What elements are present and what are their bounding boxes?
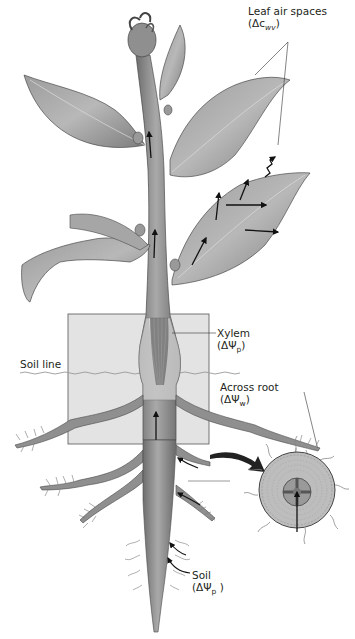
leaf-top-right [160,25,185,100]
leaf-lower-right [172,173,310,285]
root-cross-section [244,436,349,544]
terminal-bud [128,13,156,57]
label-across-root: Across root (ΔΨw) [220,381,279,410]
leaf-upper-right [170,77,290,177]
plant-water-transport-diagram [0,0,355,639]
label-soil: Soil (ΔΨp ) [192,569,224,598]
leaf-upper-left [24,75,145,147]
cross-section-pointer-arrow [210,452,265,472]
label-leaf-air-spaces: Leaf air spaces (Δcwv) [248,5,327,34]
leaf-lower-left [22,238,150,302]
label-soil-line: Soil line [20,358,61,370]
soil-label-arrow [168,558,190,573]
label-xylem: Xylem (ΔΨp) [217,327,250,356]
across-root-leader [304,392,318,450]
